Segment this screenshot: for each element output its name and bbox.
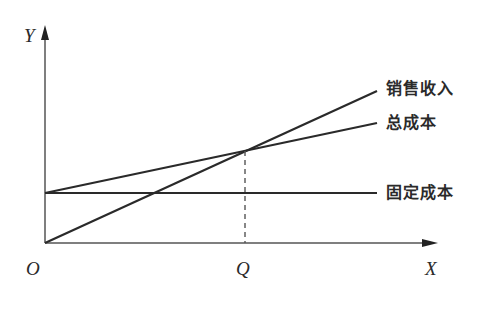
y-axis-arrow-icon: [41, 25, 49, 40]
sales-revenue-line: [45, 91, 377, 243]
x-axis-label: X: [425, 259, 437, 278]
total-cost-label: 总成本: [386, 115, 437, 131]
origin-label: O: [26, 259, 40, 278]
x-axis-arrow-icon: [422, 239, 438, 247]
q-label: Q: [236, 259, 250, 278]
total-cost-line: [45, 123, 377, 193]
sales-revenue-label: 销售收入: [386, 81, 454, 97]
y-axis-label: Y: [24, 26, 35, 45]
fixed-cost-label: 固定成本: [386, 185, 454, 201]
